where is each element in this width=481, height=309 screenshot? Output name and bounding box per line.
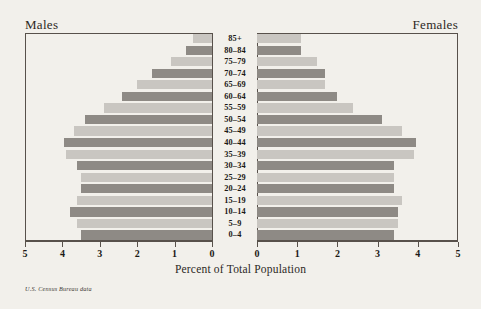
pyramid-row: 55–59 bbox=[0, 102, 481, 114]
female-bar bbox=[257, 207, 398, 216]
female-bar bbox=[257, 46, 301, 55]
x-tick-label: 1 bbox=[287, 248, 307, 259]
female-bar bbox=[257, 69, 325, 78]
age-group-label: 0–4 bbox=[213, 229, 257, 241]
pyramid-row: 75–79 bbox=[0, 56, 481, 68]
pyramid-row: 80–84 bbox=[0, 45, 481, 57]
x-tick-mark bbox=[458, 242, 459, 247]
age-group-label: 10–14 bbox=[213, 206, 257, 218]
age-group-label: 40–44 bbox=[213, 137, 257, 149]
x-tick-label: 3 bbox=[368, 248, 388, 259]
age-group-label: 85+ bbox=[213, 33, 257, 45]
male-bar bbox=[81, 184, 212, 193]
x-tick-mark bbox=[212, 242, 213, 247]
age-group-label: 65–69 bbox=[213, 79, 257, 91]
age-group-label: 30–34 bbox=[213, 160, 257, 172]
pyramid-row: 15–19 bbox=[0, 195, 481, 207]
female-bar bbox=[257, 150, 414, 159]
age-group-label: 25–29 bbox=[213, 172, 257, 184]
pyramid-row: 0–4 bbox=[0, 229, 481, 241]
age-group-label: 15–19 bbox=[213, 195, 257, 207]
x-tick-mark bbox=[62, 242, 63, 247]
x-tick-mark bbox=[100, 242, 101, 247]
female-bar bbox=[257, 173, 394, 182]
x-tick-mark bbox=[175, 242, 176, 247]
age-group-label: 80–84 bbox=[213, 45, 257, 57]
male-bar bbox=[193, 34, 212, 43]
x-axis-title: Percent of Total Population bbox=[0, 263, 481, 275]
x-tick-label: 3 bbox=[90, 248, 110, 259]
male-bar bbox=[74, 126, 212, 135]
female-bar bbox=[257, 92, 337, 101]
female-bar bbox=[257, 230, 394, 239]
female-bar bbox=[257, 34, 301, 43]
male-bar bbox=[64, 138, 212, 147]
pyramid-row: 65–69 bbox=[0, 79, 481, 91]
pyramid-row: 10–14 bbox=[0, 206, 481, 218]
age-group-label: 45–49 bbox=[213, 125, 257, 137]
males-header-label: Males bbox=[25, 17, 58, 33]
male-bar bbox=[81, 173, 212, 182]
female-bar bbox=[257, 196, 402, 205]
x-tick-label: 2 bbox=[127, 248, 147, 259]
x-tick-label: 5 bbox=[15, 248, 35, 259]
male-bar bbox=[122, 92, 212, 101]
x-tick-label: 2 bbox=[327, 248, 347, 259]
female-bar bbox=[257, 138, 416, 147]
female-bar bbox=[257, 161, 394, 170]
age-group-label: 20–24 bbox=[213, 183, 257, 195]
x-tick-mark bbox=[418, 242, 419, 247]
pyramid-row: 40–44 bbox=[0, 137, 481, 149]
pyramid-row: 30–34 bbox=[0, 160, 481, 172]
male-bar bbox=[152, 69, 212, 78]
pyramid-row: 45–49 bbox=[0, 125, 481, 137]
age-group-label: 50–54 bbox=[213, 114, 257, 126]
male-bar bbox=[171, 57, 212, 66]
male-bar bbox=[85, 115, 212, 124]
x-tick-mark bbox=[257, 242, 258, 247]
pyramid-row: 70–74 bbox=[0, 68, 481, 80]
male-bar bbox=[66, 150, 212, 159]
population-pyramid-chart: Males Females 85+80–8475–7970–7465–6960–… bbox=[0, 0, 481, 309]
age-group-label: 75–79 bbox=[213, 56, 257, 68]
male-bar bbox=[77, 196, 212, 205]
female-bar bbox=[257, 80, 325, 89]
male-bar bbox=[77, 161, 212, 170]
pyramid-row: 50–54 bbox=[0, 114, 481, 126]
female-bar bbox=[257, 219, 398, 228]
male-bar bbox=[137, 80, 212, 89]
age-group-label: 35–39 bbox=[213, 149, 257, 161]
female-bar bbox=[257, 103, 353, 112]
females-x-axis-line bbox=[257, 241, 458, 242]
female-bar bbox=[257, 126, 402, 135]
pyramid-row: 60–64 bbox=[0, 91, 481, 103]
pyramid-row: 85+ bbox=[0, 33, 481, 45]
male-bar bbox=[186, 46, 212, 55]
x-tick-label: 0 bbox=[202, 248, 222, 259]
x-tick-mark bbox=[337, 242, 338, 247]
x-tick-mark bbox=[137, 242, 138, 247]
age-group-label: 70–74 bbox=[213, 68, 257, 80]
x-tick-label: 5 bbox=[448, 248, 468, 259]
source-note: U.S. Census Bureau data bbox=[25, 285, 92, 292]
x-tick-label: 4 bbox=[52, 248, 72, 259]
pyramid-row: 35–39 bbox=[0, 149, 481, 161]
pyramid-row: 25–29 bbox=[0, 172, 481, 184]
x-tick-mark bbox=[25, 242, 26, 247]
x-tick-label: 4 bbox=[408, 248, 428, 259]
pyramid-row: 5–9 bbox=[0, 218, 481, 230]
age-group-label: 55–59 bbox=[213, 102, 257, 114]
male-bar bbox=[104, 103, 212, 112]
pyramid-rows: 85+80–8475–7970–7465–6960–6455–5950–5445… bbox=[0, 33, 481, 241]
x-tick-mark bbox=[378, 242, 379, 247]
pyramid-row: 20–24 bbox=[0, 183, 481, 195]
age-group-label: 60–64 bbox=[213, 91, 257, 103]
male-bar bbox=[70, 207, 212, 216]
age-group-label: 5–9 bbox=[213, 218, 257, 230]
male-bar bbox=[81, 230, 212, 239]
x-tick-mark bbox=[297, 242, 298, 247]
male-bar bbox=[77, 219, 212, 228]
female-bar bbox=[257, 57, 317, 66]
female-bar bbox=[257, 115, 382, 124]
x-tick-label: 1 bbox=[165, 248, 185, 259]
